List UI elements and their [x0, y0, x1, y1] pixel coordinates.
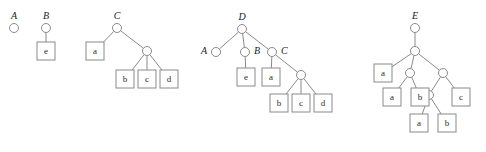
tree-node-label-B: B — [254, 45, 260, 56]
tree-node-circle — [406, 69, 415, 78]
tree-edge — [243, 33, 245, 47]
tree-title-D: D — [237, 11, 246, 22]
tree-node-circle — [212, 48, 221, 57]
tree-node-circle — [241, 48, 250, 57]
tree-edge — [132, 55, 144, 70]
tree-node-circle — [268, 48, 277, 57]
tree-edge — [286, 79, 298, 94]
tree-leaf-label-c: c — [299, 98, 303, 108]
tree-leaf-label-a: a — [269, 72, 273, 82]
tree-edge — [431, 99, 441, 114]
tree-edge — [121, 31, 144, 49]
tree-edge — [304, 79, 316, 94]
tree-title-A: A — [10, 10, 18, 21]
tree-leaf-label-d: d — [167, 74, 172, 84]
tree-node-circle — [10, 24, 19, 33]
tree-edge — [104, 31, 114, 42]
tree-leaf-label-b: b — [277, 98, 282, 108]
tree-node-circle — [411, 24, 420, 33]
tree-title-C: C — [114, 10, 121, 21]
tree-edge — [399, 77, 408, 88]
tree-node-circle — [238, 25, 247, 34]
labels-layer: AeBabcdCABCeabcdDaabcabE — [10, 10, 463, 127]
tree-node-label-A: A — [200, 45, 208, 56]
tree-leaf-label-d: d — [321, 98, 326, 108]
tree-edge — [419, 54, 440, 70]
tree-leaf-label-b: b — [445, 118, 450, 128]
nodes-layer — [10, 24, 471, 133]
tree-leaf-label-a: a — [390, 92, 394, 102]
tree-edge — [446, 77, 455, 88]
tree-edge — [431, 77, 440, 91]
tree-diagram-canvas: AeBabcdCABCeabcdDaabcabE — [0, 0, 486, 152]
tree-node-circle — [297, 71, 306, 80]
tree-diagrams-figure: AeBabcdCABCeabcdDaabcabE — [0, 0, 486, 152]
tree-edge — [412, 77, 417, 88]
tree-leaf-label-c: c — [145, 74, 149, 84]
tree-leaf-label-b: b — [123, 74, 128, 84]
tree-edge — [411, 55, 414, 68]
tree-leaf-label-a: a — [417, 118, 421, 128]
tree-edge — [219, 32, 238, 49]
tree-node-label-C: C — [281, 45, 288, 56]
tree-edge — [392, 54, 411, 67]
tree-leaf-label-b: b — [418, 92, 423, 102]
tree-leaf-label-e: e — [244, 72, 248, 82]
tree-leaf-label-a: a — [93, 46, 97, 56]
tree-node-circle — [143, 47, 152, 56]
tree-edge — [150, 55, 162, 70]
tree-title-E: E — [411, 10, 418, 21]
tree-leaf-label-e: e — [44, 46, 48, 56]
tree-title-B: B — [43, 10, 49, 21]
tree-leaf-label-a: a — [381, 68, 385, 78]
tree-leaf-label-c: c — [459, 92, 463, 102]
tree-node-circle — [439, 69, 448, 78]
tree-node-circle — [42, 24, 51, 33]
tree-node-circle — [411, 47, 420, 56]
tree-node-circle — [113, 24, 122, 33]
